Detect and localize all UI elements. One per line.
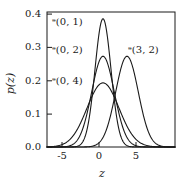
y-axis-title: p(z): [5, 64, 16, 104]
ytick-label-0.1: 0.1: [13, 109, 41, 119]
curve-label-n32: ᵊ(3, 2): [128, 45, 159, 55]
xtick-label-5: 5: [126, 151, 146, 161]
curve-label-n02: ᵊ(0, 2): [52, 45, 83, 55]
ytick-label-0.4: 0.4: [13, 9, 41, 19]
x-axis-title: z: [92, 168, 112, 179]
xtick-label-minus5: -5: [52, 151, 72, 161]
plot-canvas: [0, 0, 184, 190]
curve-label-n04: ᵊ(0, 4): [52, 76, 83, 86]
xtick-label-0: 0: [89, 151, 109, 161]
ytick-label-0.0: 0.0: [13, 142, 41, 152]
curve-label-n01: ᵊ(0, 1): [52, 17, 83, 27]
gaussian-pdf-figure: 0.4 0.3 0.2 0.1 0.0 -5 0 5 p(z) z ᵊ(0, 1…: [0, 0, 184, 190]
ytick-label-0.2: 0.2: [13, 76, 41, 86]
ytick-label-0.3: 0.3: [13, 42, 41, 52]
